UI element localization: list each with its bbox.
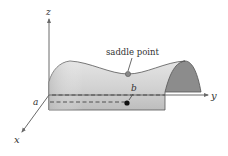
y-axis-label: y bbox=[210, 90, 217, 101]
z-axis-label: z bbox=[45, 7, 51, 17]
saddle-point-marker bbox=[125, 71, 130, 76]
surface-shading bbox=[49, 61, 185, 110]
saddle-leader-line bbox=[128, 58, 132, 71]
saddle-point-label: saddle point bbox=[106, 47, 160, 57]
a-label: a bbox=[33, 97, 38, 107]
point-ab bbox=[124, 100, 129, 105]
saddle-diagram: z y x a b saddle point bbox=[0, 0, 228, 156]
b-label: b bbox=[131, 83, 137, 93]
x-axis-label: x bbox=[14, 134, 20, 145]
